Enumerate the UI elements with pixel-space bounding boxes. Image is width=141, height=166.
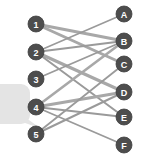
graph-node-2[interactable]: 2	[28, 44, 44, 60]
node-circle[interactable]	[116, 84, 132, 100]
node-circle[interactable]	[28, 99, 44, 115]
node-circle[interactable]	[28, 126, 44, 142]
node-circle[interactable]	[116, 33, 132, 49]
callout-body	[0, 84, 30, 124]
node-circle[interactable]	[116, 56, 132, 72]
node-circle[interactable]	[116, 137, 132, 153]
edge-layer	[36, 14, 124, 145]
node-circle[interactable]	[116, 6, 132, 22]
graph-node-1[interactable]: 1	[28, 16, 44, 32]
node-circle[interactable]	[28, 16, 44, 32]
node-circle[interactable]	[28, 71, 44, 87]
graph-node-c[interactable]: C	[116, 56, 132, 72]
diagram-canvas: 12345ABCDEF	[0, 0, 141, 166]
graph-node-5[interactable]: 5	[28, 126, 44, 142]
graph-node-b[interactable]: B	[116, 33, 132, 49]
graph-node-d[interactable]: D	[116, 84, 132, 100]
graph-node-4[interactable]: 4	[28, 99, 44, 115]
node-circle[interactable]	[116, 109, 132, 125]
graph-node-a[interactable]: A	[116, 6, 132, 22]
graph-node-e[interactable]: E	[116, 109, 132, 125]
graph-node-3[interactable]: 3	[28, 71, 44, 87]
node-circle[interactable]	[28, 44, 44, 60]
graph-node-f[interactable]: F	[116, 137, 132, 153]
bipartite-graph: 12345ABCDEF	[0, 0, 141, 166]
